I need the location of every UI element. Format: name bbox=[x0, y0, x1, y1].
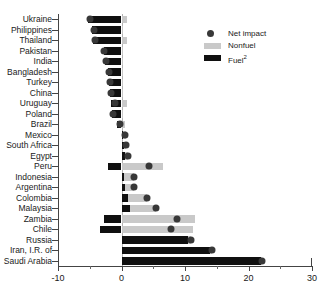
x-axis-minor-tick bbox=[153, 266, 154, 269]
category-label: Pakistan bbox=[19, 46, 52, 55]
bar-nonfuel bbox=[122, 26, 124, 34]
net-impact-marker bbox=[124, 152, 131, 159]
category-label: Peru bbox=[34, 162, 52, 171]
bar-fuel bbox=[122, 247, 211, 255]
x-axis-minor-tick bbox=[280, 266, 281, 269]
y-axis-tick bbox=[52, 93, 58, 94]
category-label: Philippines bbox=[11, 25, 52, 34]
category-label: Chile bbox=[33, 225, 52, 234]
x-axis-tick-label: -10 bbox=[51, 273, 64, 284]
y-axis-tick bbox=[52, 124, 58, 125]
net-impact-marker bbox=[143, 194, 150, 201]
y-axis-tick bbox=[52, 145, 58, 146]
net-impact-marker bbox=[259, 257, 266, 264]
category-label: Thailand bbox=[19, 36, 52, 45]
bar-fuel bbox=[104, 215, 122, 223]
y-axis-tick bbox=[52, 229, 58, 230]
category-label: Indonesia bbox=[15, 172, 52, 181]
x-axis-tick bbox=[185, 266, 186, 271]
y-axis-tick bbox=[52, 61, 58, 62]
y-axis-line bbox=[58, 14, 59, 266]
legend-label-fuel-text: Fuel bbox=[228, 56, 244, 65]
y-axis-tick bbox=[52, 187, 58, 188]
y-axis-tick bbox=[52, 114, 58, 115]
net-impact-marker bbox=[122, 142, 129, 149]
bar-nonfuel bbox=[122, 89, 123, 97]
y-axis-tick bbox=[52, 166, 58, 167]
legend-item-nonfuel: Nonfuel bbox=[228, 40, 266, 51]
x-axis-tick bbox=[312, 266, 313, 271]
bar-fuel bbox=[122, 205, 131, 213]
x-axis-tick bbox=[58, 266, 59, 271]
legend-swatch-icon-nonfuel bbox=[204, 43, 221, 49]
category-label: South Africa bbox=[6, 141, 52, 150]
bar-nonfuel bbox=[122, 68, 123, 76]
legend-dot-icon bbox=[207, 30, 214, 37]
y-axis-tick bbox=[52, 135, 58, 136]
category-label: Argentina bbox=[16, 183, 52, 192]
y-axis-tick bbox=[52, 198, 58, 199]
net-impact-marker bbox=[131, 184, 138, 191]
net-impact-marker bbox=[145, 163, 152, 170]
category-label: Iran, I.R. of bbox=[10, 246, 52, 255]
bar-fuel bbox=[108, 163, 122, 171]
net-impact-marker bbox=[173, 215, 180, 222]
net-impact-marker bbox=[168, 226, 175, 233]
legend-label-fuel-footnote: 2 bbox=[244, 54, 247, 60]
bar-nonfuel bbox=[122, 226, 193, 234]
net-impact-marker bbox=[90, 26, 97, 33]
plot-area bbox=[58, 14, 312, 266]
net-impact-marker bbox=[111, 100, 118, 107]
net-impact-marker bbox=[116, 121, 123, 128]
chart-legend: Net impact Nonfuel Fuel2 bbox=[228, 28, 266, 64]
net-impact-marker bbox=[110, 110, 117, 117]
category-label: Mexico bbox=[25, 130, 52, 139]
category-label: Colombia bbox=[16, 193, 52, 202]
bar-nonfuel bbox=[122, 215, 195, 223]
legend-label-fuel: Fuel2 bbox=[228, 52, 247, 66]
category-label: Turkey bbox=[26, 78, 52, 87]
category-label: Bangladesh bbox=[7, 67, 52, 76]
category-label: Poland bbox=[26, 109, 52, 118]
legend-item-fuel: Fuel2 bbox=[228, 52, 266, 63]
category-label: Uruguay bbox=[20, 99, 52, 108]
category-label: Saudi Arabia bbox=[4, 256, 52, 265]
net-impact-marker bbox=[209, 247, 216, 254]
bar-nonfuel bbox=[122, 163, 163, 171]
y-axis-tick bbox=[52, 240, 58, 241]
y-axis-tick bbox=[52, 40, 58, 41]
bar-nonfuel bbox=[122, 58, 123, 66]
category-label: India bbox=[34, 57, 52, 66]
category-label: China bbox=[30, 88, 52, 97]
net-impact-marker bbox=[130, 173, 137, 180]
bar-fuel bbox=[122, 173, 125, 181]
y-axis-tick bbox=[52, 177, 58, 178]
y-axis-tick bbox=[52, 30, 58, 31]
x-axis-tick-label: 30 bbox=[307, 273, 317, 284]
net-impact-marker bbox=[101, 47, 108, 54]
bar-fuel bbox=[122, 194, 129, 202]
x-axis-right-cap bbox=[311, 258, 312, 266]
net-impact-marker bbox=[91, 37, 98, 44]
bar-nonfuel bbox=[122, 100, 127, 108]
bar-nonfuel bbox=[122, 110, 124, 118]
net-impact-marker bbox=[87, 16, 94, 23]
y-axis-tick bbox=[52, 51, 58, 52]
x-axis-tick-label: 10 bbox=[180, 273, 190, 284]
legend-swatch-icon-fuel bbox=[204, 55, 221, 61]
bar-nonfuel bbox=[122, 79, 124, 87]
bar-fuel bbox=[122, 184, 126, 192]
legend-item-net-impact: Net impact bbox=[228, 28, 266, 39]
net-impact-marker bbox=[107, 89, 114, 96]
x-axis-tick-label: 0 bbox=[119, 273, 124, 284]
x-axis-tick-label: 20 bbox=[243, 273, 253, 284]
x-axis-tick bbox=[249, 266, 250, 271]
bar-fuel bbox=[100, 226, 122, 234]
bar-nonfuel bbox=[122, 37, 127, 45]
y-axis-tick bbox=[52, 219, 58, 220]
bar-fuel bbox=[122, 236, 189, 244]
x-axis-minor-tick bbox=[217, 266, 218, 269]
chart-container: -100102030 UkrainePhilippinesThailandPak… bbox=[0, 0, 321, 302]
net-impact-marker bbox=[107, 79, 114, 86]
legend-label-net-impact: Net impact bbox=[228, 28, 266, 39]
